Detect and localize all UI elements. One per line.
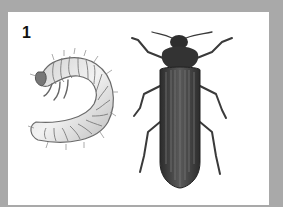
illustration-panel: 1 — [8, 12, 269, 205]
beetle-illustration — [8, 12, 269, 205]
